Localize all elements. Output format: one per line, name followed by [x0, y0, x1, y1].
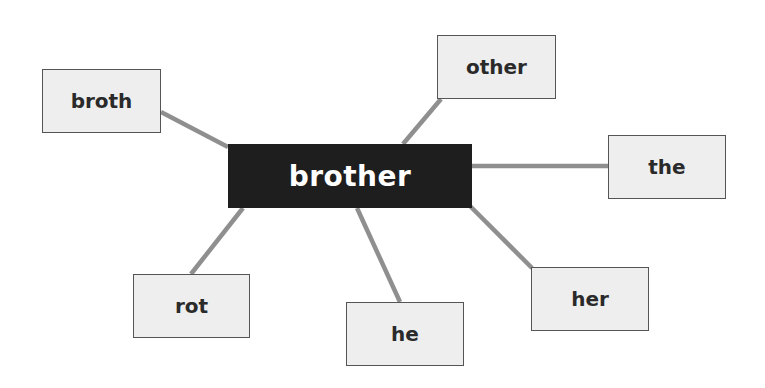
connector-line-other [403, 99, 441, 144]
word-label: the [648, 155, 685, 179]
connector-line-her [470, 206, 532, 268]
word-web-diagram: brother broth other the rot he her [0, 0, 765, 388]
center-word-label: brother [289, 160, 412, 193]
word-box-he: he [346, 302, 464, 366]
word-label: other [466, 55, 527, 79]
connector-line-he [357, 208, 400, 302]
word-label: rot [175, 294, 208, 318]
connector-line-broth [161, 112, 228, 147]
word-label: broth [71, 89, 133, 113]
connector-line-rot [191, 208, 243, 274]
word-box-the: the [608, 135, 726, 199]
word-label: her [571, 287, 609, 311]
word-box-her: her [531, 267, 649, 331]
word-box-rot: rot [133, 274, 250, 338]
word-label: he [391, 322, 419, 346]
word-box-other: other [437, 35, 556, 99]
word-box-broth: broth [42, 69, 161, 133]
center-word-box: brother [228, 144, 472, 208]
